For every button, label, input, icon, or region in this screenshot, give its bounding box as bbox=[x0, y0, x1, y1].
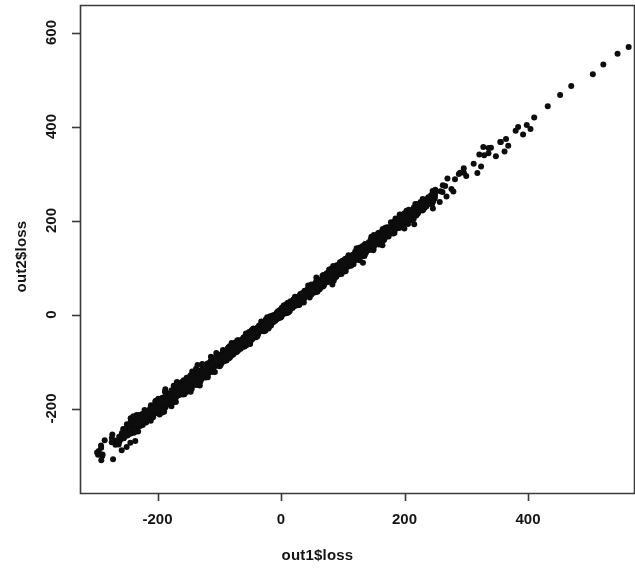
x-tick-label: -200 bbox=[123, 510, 193, 527]
x-tick-label: 400 bbox=[493, 510, 563, 527]
y-tick-label: 0 bbox=[42, 280, 59, 350]
scatter-plot-canvas bbox=[0, 0, 635, 572]
scatter-plot-figure: out1$loss out2$loss -2000200400 -2000200… bbox=[0, 0, 635, 572]
x-axis-label: out1$loss bbox=[0, 546, 635, 563]
x-tick-label: 0 bbox=[246, 510, 316, 527]
y-tick-label: 600 bbox=[42, 0, 59, 68]
y-tick-label: 400 bbox=[42, 92, 59, 162]
y-axis-label: out2$loss bbox=[12, 177, 29, 337]
y-tick-label: 200 bbox=[42, 186, 59, 256]
y-tick-label: -200 bbox=[42, 374, 59, 444]
x-tick-label: 200 bbox=[370, 510, 440, 527]
